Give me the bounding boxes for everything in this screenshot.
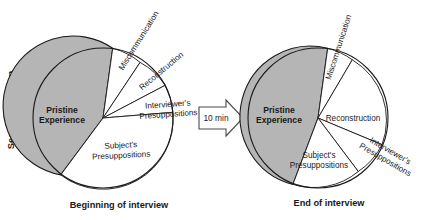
slice-label-reconstruction-end: Reconstruction — [326, 114, 381, 123]
slice-label-line2: Experience — [39, 115, 85, 125]
slice-label-line1: Pristine — [46, 105, 78, 115]
slice-label-line2: Experience — [256, 115, 302, 125]
slice-label-line1: Pristine — [263, 105, 295, 115]
pie-chart-end: Pristine Experience Miscommunication Rec… — [240, 13, 418, 208]
transition-arrow-label: 10 min — [203, 113, 228, 123]
transition-arrow-10-min: 10 min — [199, 100, 243, 136]
pie-chart-beginning: Pristine Experience Miscommunication Rec… — [3, 9, 198, 210]
slice-label-line2: Presuppositions — [290, 161, 348, 170]
slice-label-line1: Subject's — [104, 140, 137, 151]
caption-beginning-of-interview: Beginning of interview — [70, 200, 169, 210]
slice-label-line1: Subject's — [303, 151, 336, 160]
caption-end-of-interview: End of interview — [294, 198, 366, 208]
two-pie-comparison-figure: Second Occasion Pristine Experience Misc… — [0, 0, 430, 220]
slice-label-interviewers-presuppositions-beginning: Interviewer's Presuppositions — [138, 98, 197, 121]
